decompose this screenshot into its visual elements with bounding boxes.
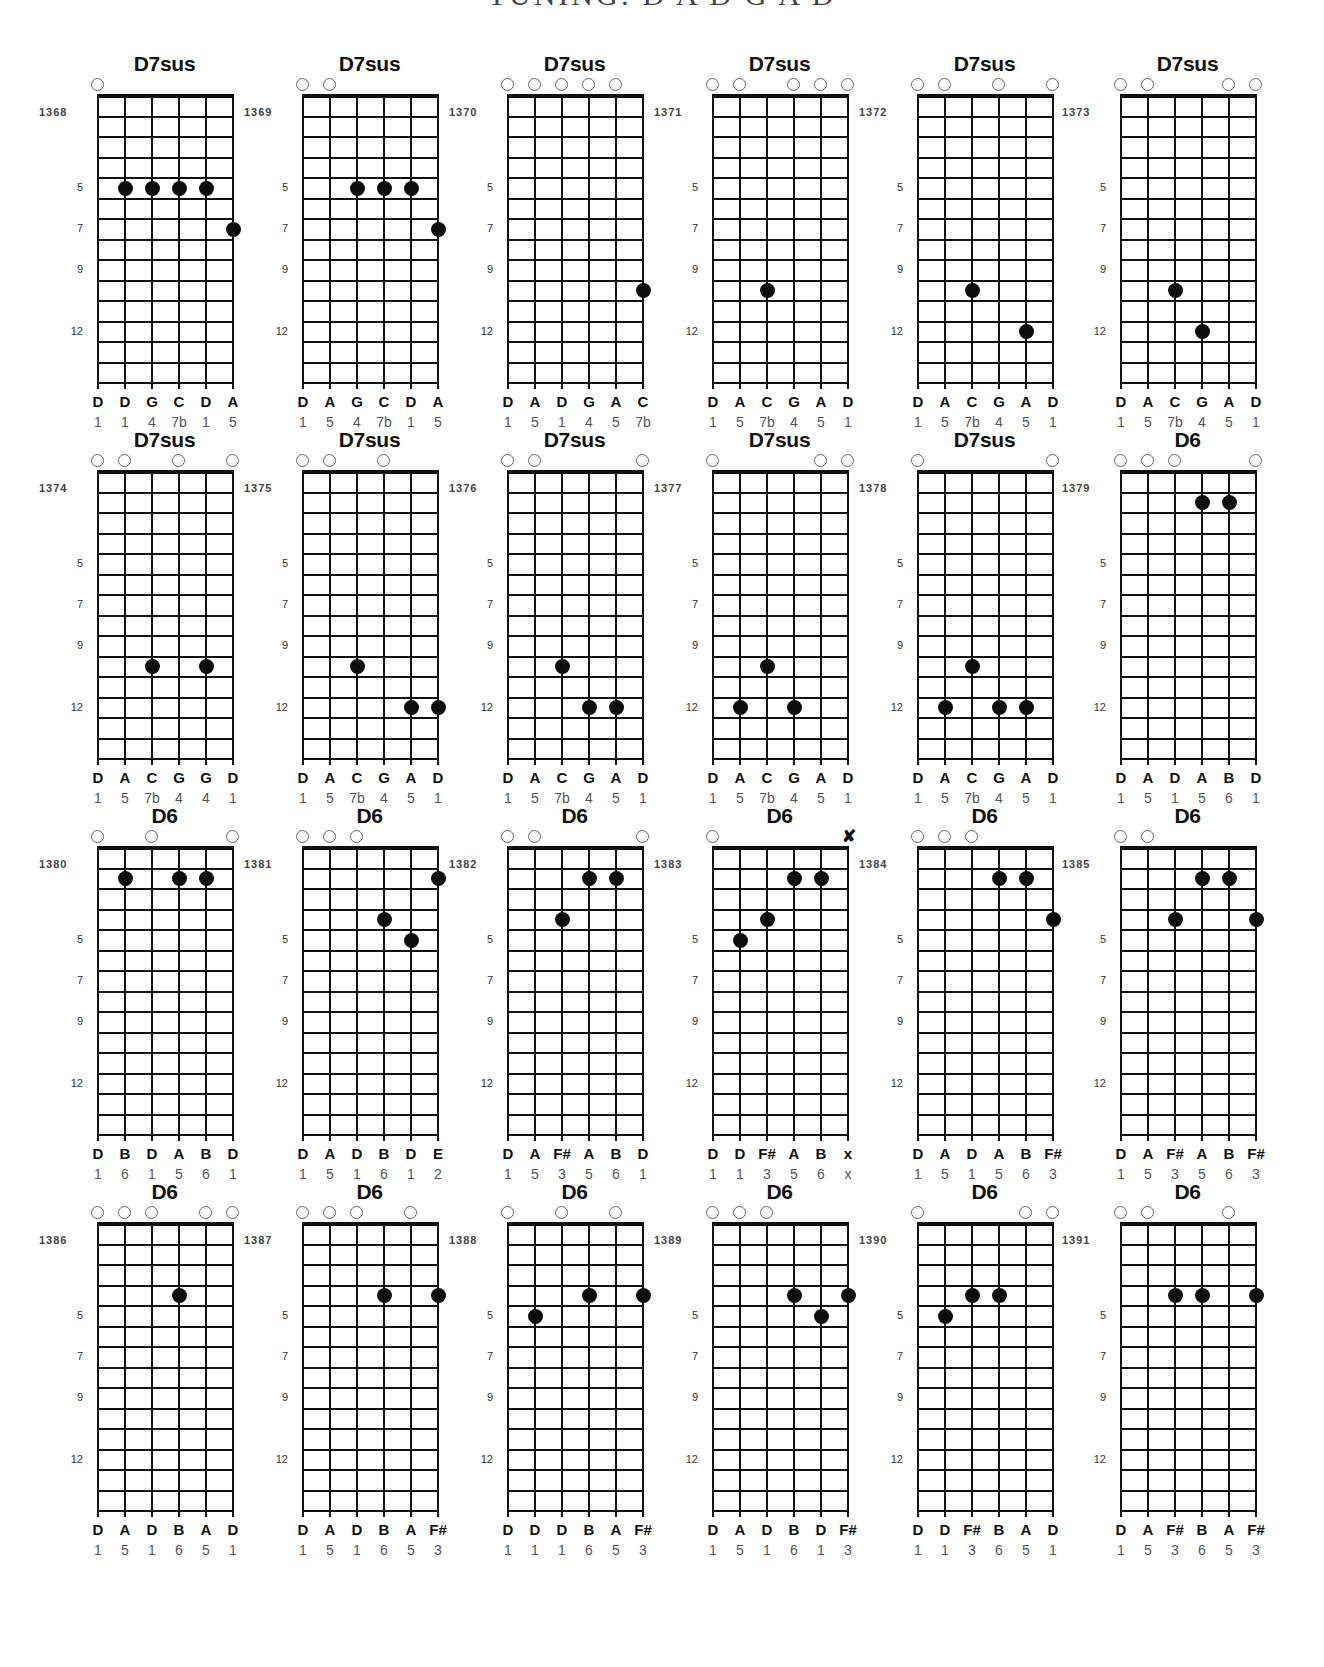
string-note: D — [426, 769, 450, 786]
string-note: D — [836, 393, 860, 410]
chord-name: D6 — [1080, 428, 1295, 452]
string-note: A — [1014, 1521, 1038, 1538]
fret-line — [917, 177, 1054, 179]
string-line — [1025, 848, 1027, 1141]
string-line — [642, 1224, 644, 1517]
fret-number-label: 9 — [883, 1015, 903, 1027]
string-note: A — [1136, 1521, 1160, 1538]
finger-dot — [760, 659, 775, 674]
string-line — [178, 472, 180, 765]
fret-line — [97, 950, 234, 952]
string-line — [998, 96, 1000, 389]
finger-dot — [404, 700, 419, 715]
fret-line — [97, 341, 234, 343]
fret-number-label: 9 — [473, 263, 493, 275]
open-string-icon — [296, 830, 309, 843]
open-string-icon — [350, 830, 363, 843]
fret-line — [97, 656, 234, 658]
finger-dot — [1249, 912, 1264, 927]
string-line — [97, 96, 99, 389]
open-string-icon — [501, 830, 514, 843]
open-string-icon — [91, 1206, 104, 1219]
fret-line — [507, 1011, 644, 1013]
chord-name: D6 — [57, 804, 272, 828]
string-note: A — [194, 1521, 218, 1538]
fret-line — [302, 157, 439, 159]
string-note: F# — [631, 1521, 655, 1538]
string-line — [383, 96, 385, 389]
string-note: D — [1244, 393, 1268, 410]
fret-number-label: 5 — [473, 557, 493, 569]
scale-degree: 1 — [809, 1542, 833, 1558]
string-note: B — [194, 1145, 218, 1162]
fret-number-label: 7 — [678, 598, 698, 610]
chord-name: D6 — [877, 804, 1092, 828]
open-string-icon — [323, 1206, 336, 1219]
chord-name: D6 — [1080, 804, 1295, 828]
fret-line — [1120, 676, 1257, 678]
fret-line — [507, 1032, 644, 1034]
fret-line — [507, 1305, 644, 1307]
fret-number-label: 9 — [883, 1391, 903, 1403]
string-note: D — [631, 1145, 655, 1162]
chord-name: D7sus — [672, 52, 887, 76]
fret-line — [302, 1346, 439, 1348]
fret-number-label: 5 — [63, 181, 83, 193]
finger-dot — [814, 1309, 829, 1324]
fret-number-label: 9 — [1086, 263, 1106, 275]
open-string-icon — [555, 78, 568, 91]
fret-line — [1120, 697, 1257, 699]
string-line — [944, 96, 946, 389]
fret-line — [507, 1469, 644, 1471]
open-string-icon — [172, 454, 185, 467]
fret-line — [917, 1367, 1054, 1369]
open-string-icon — [1114, 1206, 1127, 1219]
fret-line — [97, 909, 234, 911]
string-note: F# — [1163, 1521, 1187, 1538]
fret-line — [1120, 1305, 1257, 1307]
chart-number: 1377 — [654, 482, 682, 494]
fret-line — [1120, 1011, 1257, 1013]
fret-line — [507, 929, 644, 931]
fret-line — [507, 553, 644, 555]
chord-name: D6 — [57, 1180, 272, 1204]
fret-number-label: 9 — [678, 1391, 698, 1403]
string-note: D — [906, 1145, 930, 1162]
fret-line — [712, 1011, 849, 1013]
string-note: D — [631, 769, 655, 786]
fret-number-label: 12 — [63, 701, 83, 713]
string-line — [917, 96, 919, 389]
fret-line — [97, 321, 234, 323]
scale-degree: 3 — [426, 1542, 450, 1558]
open-string-icon — [226, 830, 239, 843]
fret-line — [712, 1510, 849, 1512]
fret-line — [917, 1114, 1054, 1116]
fret-line — [302, 1326, 439, 1328]
fret-line — [507, 341, 644, 343]
chord-name: D6 — [467, 1180, 682, 1204]
finger-dot — [787, 700, 802, 715]
nut — [1120, 470, 1257, 474]
string-line — [124, 1224, 126, 1517]
fret-line — [1120, 1264, 1257, 1266]
fret-line — [302, 1408, 439, 1410]
fret-number-label: 5 — [1086, 933, 1106, 945]
fret-line — [917, 1093, 1054, 1095]
open-string-icon — [911, 1206, 924, 1219]
finger-dot — [377, 912, 392, 927]
open-string-icon — [501, 78, 514, 91]
fret-line — [1120, 533, 1257, 535]
finger-dot — [555, 912, 570, 927]
fret-number-label: 12 — [883, 1077, 903, 1089]
fret-line — [1120, 594, 1257, 596]
string-note: C — [960, 393, 984, 410]
open-string-icon — [733, 78, 746, 91]
open-string-icon — [1249, 78, 1262, 91]
fret-line — [917, 1387, 1054, 1389]
string-note: D — [291, 1521, 315, 1538]
chord-name: D6 — [672, 1180, 887, 1204]
fret-number-label: 7 — [63, 974, 83, 986]
string-note: D — [1109, 1521, 1133, 1538]
scale-degree: 1 — [906, 1542, 930, 1558]
fret-line — [712, 136, 849, 138]
